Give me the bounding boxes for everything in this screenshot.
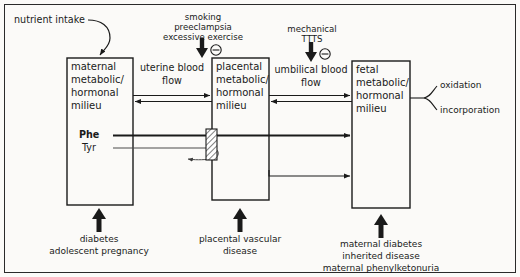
- box-fetal-line-4: milieu: [356, 103, 387, 115]
- uterine-flow-line-2: flow: [162, 75, 182, 86]
- umbilical-down-arrow: [305, 42, 317, 62]
- umbilical-flow-line-1: umbilical blood: [275, 64, 348, 75]
- box-placental-line-1: placental: [216, 61, 262, 73]
- uterine-cause-line-3: excessive exercise: [163, 32, 243, 42]
- uterine-cause-line-2: preeclampsia: [174, 22, 232, 32]
- uterine-minus-sign: [211, 45, 221, 55]
- box-fetal-line-2: metabolic/: [356, 77, 409, 89]
- umbilical-flow-line-2: flow: [301, 77, 321, 88]
- maternal-caption-line-2: adolescent pregnancy: [49, 246, 149, 257]
- arrow-up-maternal: [92, 208, 106, 232]
- placental-caption-line-2: disease: [223, 246, 257, 257]
- box-placental-line-4: milieu: [216, 100, 247, 112]
- box-maternal-line-4: milieu: [71, 100, 102, 112]
- arrow-up-fetal: [374, 214, 388, 238]
- maternal-caption-line-1: diabetes: [80, 234, 119, 245]
- uterine-cause-line-1: smoking: [185, 12, 221, 22]
- box-maternal-line-3: hormonal: [71, 87, 119, 99]
- box-placental-line-2: metabolic/: [216, 74, 269, 86]
- phe-label: Phe: [79, 129, 99, 140]
- box-placental-line-3: hormonal: [216, 87, 264, 99]
- box-maternal-line-2: metabolic/: [71, 74, 124, 86]
- nutrient-intake-arrow: [88, 20, 110, 55]
- umbilical-cause-line-1: mechanical: [287, 24, 336, 34]
- umbilical-minus-sign: [320, 49, 330, 59]
- nutrient-intake-label: nutrient intake: [14, 14, 85, 25]
- fetal-return-pathway: [269, 170, 350, 176]
- oxidation-label: oxidation: [440, 80, 482, 91]
- placental-caption-line-1: placental vascular: [199, 234, 281, 245]
- arrow-up-placental: [233, 208, 247, 232]
- diagram-canvas: nutrient intake maternal metabolic/ horm…: [0, 0, 520, 277]
- fetal-output-fork: [410, 86, 437, 110]
- uterine-flow-line-1: uterine blood: [140, 62, 204, 73]
- fetal-caption-line-2: inherited disease: [342, 251, 419, 262]
- tyr-label: Tyr: [82, 142, 96, 153]
- box-maternal-line-1: maternal: [71, 61, 116, 73]
- box-fetal-line-1: fetal: [356, 64, 379, 76]
- umbilical-cause-line-2: TTTS: [302, 34, 323, 44]
- fetal-caption-line-1: maternal diabetes: [340, 239, 422, 250]
- incorporation-label: incorporation: [440, 105, 500, 116]
- fetal-caption-line-3: maternal phenylketonuria: [323, 263, 440, 274]
- placental-transporter-block: [206, 129, 217, 160]
- box-fetal-line-3: hormonal: [356, 90, 404, 102]
